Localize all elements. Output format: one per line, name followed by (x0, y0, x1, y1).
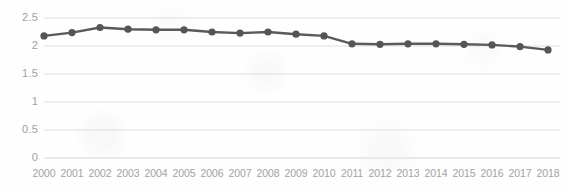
data-point-2008 (264, 28, 271, 35)
data-series-1 (40, 24, 551, 54)
data-point-2009 (292, 31, 299, 38)
x-axis-tick-2012: 2012 (366, 168, 394, 179)
x-axis-tick-2014: 2014 (422, 168, 450, 179)
x-axis-tick-2015: 2015 (450, 168, 478, 179)
data-point-2015 (460, 41, 467, 48)
data-point-2013 (404, 40, 411, 47)
x-axis-tick-2017: 2017 (506, 168, 534, 179)
y-gridlines (44, 18, 560, 158)
x-axis-tick-2008: 2008 (254, 168, 282, 179)
data-point-2000 (40, 32, 47, 39)
x-axis-tick-2001: 2001 (58, 168, 86, 179)
x-axis-tick-2009: 2009 (282, 168, 310, 179)
data-point-2001 (68, 29, 75, 36)
data-point-2002 (96, 24, 103, 31)
x-axis-tick-2016: 2016 (478, 168, 506, 179)
x-axis-tick-2018: 2018 (534, 168, 562, 179)
data-point-2007 (236, 29, 243, 36)
x-axis-tick-2000: 2000 (30, 168, 58, 179)
data-point-2014 (432, 40, 439, 47)
data-point-2018 (544, 46, 551, 53)
data-point-2012 (376, 41, 383, 48)
x-axis-tick-2004: 2004 (142, 168, 170, 179)
x-axis-tick-2003: 2003 (114, 168, 142, 179)
x-axis-tick-2007: 2007 (226, 168, 254, 179)
data-point-2005 (180, 26, 187, 33)
x-axis-tick-2005: 2005 (170, 168, 198, 179)
data-point-2004 (152, 26, 159, 33)
x-axis-tick-2013: 2013 (394, 168, 422, 179)
x-axis-tick-2011: 2011 (338, 168, 366, 179)
x-axis-tick-2010: 2010 (310, 168, 338, 179)
plot-area (0, 0, 568, 188)
x-axis-tick-2002: 2002 (86, 168, 114, 179)
data-point-2003 (124, 26, 131, 33)
data-point-2010 (320, 32, 327, 39)
data-point-2016 (488, 41, 495, 48)
data-point-2011 (348, 40, 355, 47)
data-point-2017 (516, 43, 523, 50)
line-chart: 2.5 2 1.5 1 0.5 0 2000200120022003200420… (0, 0, 568, 188)
data-point-2006 (208, 28, 215, 35)
x-axis-tick-2006: 2006 (198, 168, 226, 179)
